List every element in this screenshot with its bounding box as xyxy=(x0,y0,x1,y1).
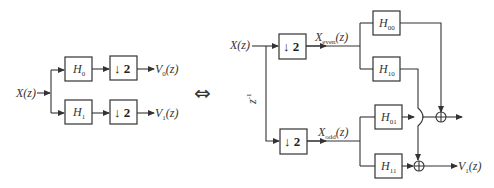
v0-output-label: V0(z) xyxy=(155,62,179,78)
left-diagram: X(z) H0 ↓ 2 V0(z) H1 ↓ 2 V1(z) xyxy=(15,56,179,124)
v1-output-label-left: V1(z) xyxy=(155,106,179,122)
delay-branch-wire xyxy=(266,46,279,141)
right-diagram: X(z) z-1 ↓ 2 Xeven(z) ↓ 2 Xodd(z) H00 xyxy=(229,11,482,178)
v1-output-label-right: V1(z) xyxy=(458,159,482,175)
decimator-odd-block: ↓ 2 xyxy=(280,129,307,154)
filter-h01-block: H01 xyxy=(375,105,402,129)
left-input-label: X(z) xyxy=(15,86,36,100)
filter-h11-block: H11 xyxy=(375,154,402,178)
equivalence-icon: ⇔ xyxy=(194,81,211,105)
filter-h1-block: H1 xyxy=(65,100,92,124)
adder-bottom xyxy=(414,161,424,171)
svg-text:↓ 2: ↓ 2 xyxy=(284,134,300,149)
svg-text:↓ 2: ↓ 2 xyxy=(283,39,299,54)
filter-bank-diagram: X(z) H0 ↓ 2 V0(z) H1 ↓ 2 V1(z) ⇔ xyxy=(0,0,494,188)
svg-text:↓ 2: ↓ 2 xyxy=(114,105,130,120)
x-even-label: Xeven(z) xyxy=(314,30,348,46)
filter-h00-block: H00 xyxy=(373,11,400,35)
adder-top xyxy=(436,112,446,122)
filter-h0-block: H0 xyxy=(65,57,92,81)
filter-h10-block: H10 xyxy=(373,57,400,81)
h10-to-adder-wire xyxy=(400,69,423,160)
decimator-top-left-block: ↓ 2 xyxy=(110,56,137,80)
delay-label: z-1 xyxy=(245,93,259,105)
h00-to-adder-wire xyxy=(400,23,441,112)
x-odd-label: Xodd(z) xyxy=(317,125,349,141)
decimator-bottom-left-block: ↓ 2 xyxy=(110,100,137,124)
right-input-label: X(z) xyxy=(229,38,250,52)
decimator-even-block: ↓ 2 xyxy=(279,34,306,59)
svg-text:↓ 2: ↓ 2 xyxy=(114,61,130,76)
